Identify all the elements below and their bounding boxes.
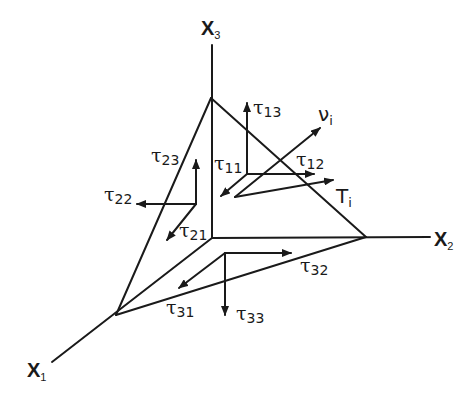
tau21-sub: 21 [190, 227, 208, 243]
tau32-sub: 32 [311, 262, 329, 278]
tau33-label: τ33 [236, 304, 264, 325]
tau22-base: τ [104, 183, 115, 205]
tau12-base: τ [296, 148, 307, 170]
tau32-base: τ [300, 254, 311, 276]
tau11-base: τ [214, 152, 225, 174]
x1-label-base: X [27, 359, 40, 381]
tau32-label: τ32 [300, 256, 328, 277]
x3-axis-label: X3 [201, 18, 220, 41]
normal-label-sub: i [329, 113, 333, 128]
normal-vector-label: νi [318, 104, 333, 127]
x1-axis-label: X1 [27, 360, 46, 383]
tau22-label: τ22 [104, 185, 132, 206]
x2-label-base: X [434, 228, 447, 250]
tetrahedron-stress-diagram: X3 X2 X1 νi Ti τ13 τ12 τ11 τ23 τ22 τ21 τ… [0, 0, 476, 399]
tau11-arrow [221, 174, 247, 196]
tau13-sub: 13 [264, 104, 282, 120]
tau11-sub: 11 [225, 160, 243, 176]
tau22-sub: 22 [115, 191, 133, 207]
tau31-base: τ [166, 296, 177, 318]
x2-axis [212, 237, 430, 238]
tau12-sub: 12 [307, 156, 325, 172]
traction-label-sub: i [348, 195, 352, 210]
tau23-sub: 23 [162, 152, 180, 168]
tau12-label: τ12 [296, 150, 324, 171]
tau31-sub: 31 [177, 304, 195, 320]
x2-axis-label: X2 [434, 229, 453, 252]
diagram-canvas [0, 0, 476, 399]
x2-label-sub: 2 [447, 240, 453, 252]
traction-vector-label: Ti [336, 186, 352, 209]
tau13-base: τ [253, 96, 264, 118]
tau31-label: τ31 [166, 298, 194, 319]
tau33-sub: 33 [247, 310, 265, 326]
tau23-label: τ23 [151, 146, 179, 167]
tau21-base: τ [179, 219, 190, 241]
tau23-base: τ [151, 144, 162, 166]
traction-label-base: T [336, 184, 348, 208]
tau21-label: τ21 [179, 221, 207, 242]
x3-label-sub: 3 [214, 29, 220, 41]
tau11-label: τ11 [214, 154, 242, 175]
x1-label-sub: 1 [40, 371, 46, 383]
tau33-base: τ [236, 302, 247, 324]
normal-label-base: ν [318, 102, 329, 126]
tau13-label: τ13 [253, 98, 281, 119]
x3-label-base: X [201, 17, 214, 39]
